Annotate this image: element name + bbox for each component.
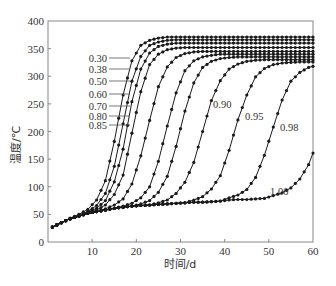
data-point	[298, 46, 301, 49]
data-point	[267, 58, 270, 61]
y-tick-label: 300	[28, 70, 45, 82]
data-point	[276, 35, 279, 38]
data-point	[281, 46, 284, 49]
data-point	[205, 114, 208, 117]
y-tick-label: 100	[28, 181, 45, 193]
data-point	[175, 202, 178, 205]
data-point	[157, 45, 160, 48]
data-point	[117, 206, 120, 209]
data-point	[175, 38, 178, 41]
data-point	[250, 198, 253, 201]
data-point	[210, 200, 213, 203]
data-point	[51, 226, 54, 229]
data-point	[192, 50, 195, 53]
data-point	[210, 38, 213, 41]
data-point	[161, 183, 164, 186]
data-point	[192, 46, 195, 49]
data-point	[219, 174, 222, 177]
data-point	[197, 197, 200, 200]
data-point	[285, 35, 288, 38]
data-point	[303, 170, 306, 173]
data-point	[197, 57, 200, 60]
data-point	[263, 55, 266, 58]
data-point	[170, 35, 173, 38]
data-point	[113, 140, 116, 143]
data-point	[108, 208, 111, 211]
data-point	[179, 127, 182, 130]
data-point	[170, 42, 173, 45]
curve-label-1_00: 1.00	[270, 186, 288, 197]
data-point	[113, 193, 116, 196]
data-point	[294, 50, 297, 53]
data-point	[113, 180, 116, 183]
data-point	[281, 58, 284, 61]
data-point	[267, 38, 270, 41]
data-point	[179, 46, 182, 49]
data-point	[197, 38, 200, 41]
curve-label-0_98: 0.98	[280, 122, 298, 133]
data-point	[298, 35, 301, 38]
data-point	[179, 186, 182, 189]
data-point	[219, 200, 222, 203]
data-point	[245, 55, 248, 58]
data-point	[152, 38, 155, 41]
data-point	[267, 42, 270, 45]
data-point	[285, 42, 288, 45]
data-point	[183, 42, 186, 45]
data-point	[152, 42, 155, 45]
data-point	[130, 80, 133, 83]
data-point	[258, 58, 261, 61]
data-point	[258, 42, 261, 45]
data-point	[201, 130, 204, 133]
data-point	[223, 199, 226, 202]
data-point	[175, 47, 178, 50]
data-point	[294, 61, 297, 64]
curve-label-0_30: 0.30	[89, 53, 107, 64]
data-point	[232, 46, 235, 49]
data-point	[170, 39, 173, 42]
data-point	[95, 210, 98, 213]
data-point	[232, 50, 235, 53]
data-point	[192, 42, 195, 45]
data-point	[307, 66, 310, 69]
data-point	[148, 39, 151, 42]
data-point	[126, 76, 129, 79]
data-point	[267, 65, 270, 68]
data-point	[135, 111, 138, 114]
data-point	[188, 201, 191, 204]
data-point	[263, 67, 266, 70]
data-point	[228, 198, 231, 201]
data-point	[232, 56, 235, 59]
data-point	[144, 49, 147, 52]
data-point	[311, 38, 314, 41]
data-point	[139, 196, 142, 199]
data-point	[258, 55, 261, 58]
data-point	[157, 203, 160, 206]
data-point	[170, 195, 173, 198]
data-point	[289, 50, 292, 53]
data-point	[104, 208, 107, 211]
data-point	[161, 36, 164, 39]
data-point	[77, 214, 80, 217]
x-tick-label: 30	[175, 245, 187, 257]
data-point	[210, 42, 213, 45]
data-point	[307, 42, 310, 45]
data-point	[122, 148, 125, 151]
data-point	[228, 46, 231, 49]
data-point	[122, 174, 125, 177]
data-point	[272, 50, 275, 53]
data-point	[276, 58, 279, 61]
data-point	[258, 46, 261, 49]
data-point	[130, 202, 133, 205]
data-point	[228, 38, 231, 41]
data-point	[311, 42, 314, 45]
data-point	[152, 172, 155, 175]
data-point	[250, 84, 253, 87]
data-point	[139, 154, 142, 157]
data-point	[201, 35, 204, 38]
data-point	[64, 219, 67, 222]
data-point	[148, 51, 151, 54]
x-axis-title: 时间/d	[164, 258, 197, 271]
data-point	[289, 80, 292, 83]
data-point	[60, 221, 63, 224]
